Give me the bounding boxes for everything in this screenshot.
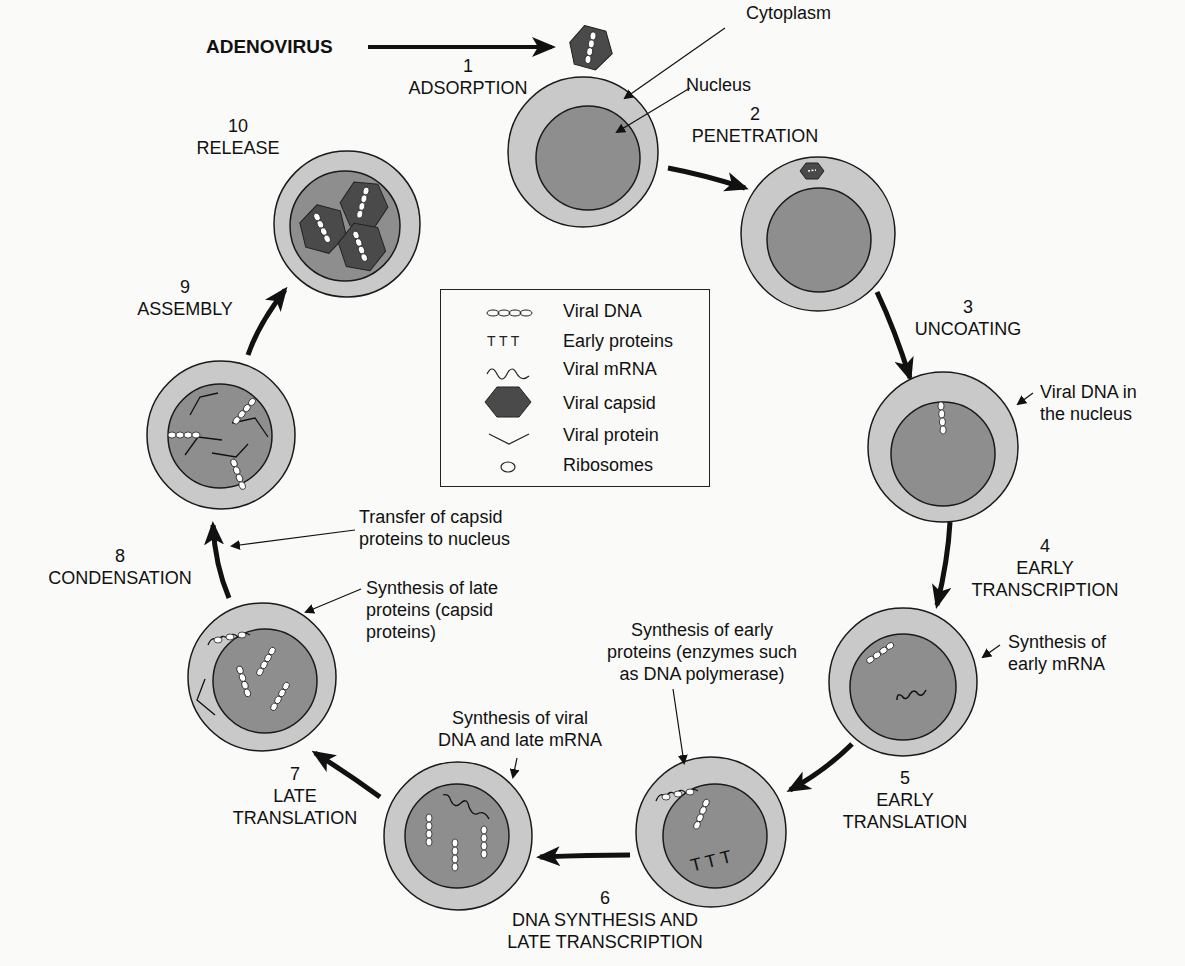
label-line: early mRNA	[1008, 653, 1106, 675]
step-1-label: 1 ADSORPTION	[368, 55, 568, 99]
step-1-number: 1	[368, 55, 568, 77]
legend: Viral DNA T T T Early proteins Viral mRN…	[440, 289, 710, 487]
step-5-name: EARLY	[815, 789, 995, 811]
viral-mrna-icon	[441, 356, 561, 384]
step-8-name: CONDENSATION	[20, 567, 220, 589]
legend-label: Ribosomes	[563, 455, 653, 476]
cell-early-transcription	[829, 608, 977, 756]
step-5-number: 5	[815, 767, 995, 789]
viral-protein-icon	[441, 422, 561, 450]
legend-item-viral-mrna: Viral mRNA	[441, 356, 709, 384]
legend-item-early-proteins: T T T Early proteins	[441, 328, 709, 356]
arrow-step-2	[668, 168, 745, 188]
cytoplasm-label: Cytoplasm	[746, 2, 831, 24]
step-10-name: RELEASE	[168, 137, 308, 159]
synthesis-early-proteins-label: Synthesis of early proteins (enzymes suc…	[582, 619, 822, 685]
legend-label: Early proteins	[563, 331, 673, 352]
step-6-label: 6 DNA SYNTHESIS AND LATE TRANSCRIPTION	[495, 887, 715, 953]
capsid-transfer-pointer	[232, 530, 355, 546]
label-line: Synthesis of early	[582, 619, 822, 641]
label-line: as DNA polymerase)	[582, 663, 822, 685]
early-proteins-icon: T T T	[441, 328, 561, 356]
label-line: Synthesis of	[1008, 631, 1106, 653]
early-mrna-pointer	[983, 645, 1000, 657]
legend-item-viral-protein: Viral protein	[441, 422, 709, 450]
cell-late-translation	[188, 603, 336, 751]
legend-label: Viral DNA	[563, 301, 642, 322]
legend-label: Viral protein	[563, 425, 659, 446]
cell-release	[274, 151, 420, 297]
transfer-capsid-label: Transfer of capsid proteins to nucleus	[359, 506, 510, 550]
step-5-name2: TRANSLATION	[815, 811, 995, 833]
viral-dna-in-nucleus-label: Viral DNA in the nucleus	[1040, 381, 1137, 425]
early-proteins-pointer	[673, 689, 684, 763]
viral-capsid-icon	[441, 384, 561, 420]
svg-text:T T T: T T T	[487, 333, 520, 349]
step-2-label: 2 PENETRATION	[655, 103, 855, 147]
viral-dna-icon	[441, 298, 561, 326]
cell-uncoating	[868, 372, 1018, 522]
step-5-label: 5 EARLY TRANSLATION	[815, 767, 995, 833]
step-9-name: ASSEMBLY	[110, 298, 260, 320]
legend-item-ribosomes: Ribosomes	[441, 452, 709, 480]
label-line: Viral DNA in	[1040, 381, 1137, 403]
cell-early-translation: T T T	[636, 757, 786, 907]
title-adenovirus: ADENOVIRUS	[206, 36, 333, 58]
cell-adsorption	[508, 77, 658, 227]
step-2-name: PENETRATION	[655, 125, 855, 147]
cell-penetration	[741, 157, 895, 311]
step-9-label: 9 ASSEMBLY	[110, 276, 260, 320]
step-10-label: 10 RELEASE	[168, 115, 308, 159]
synthesis-early-mrna-label: Synthesis of early mRNA	[1008, 631, 1106, 675]
step-4-name: EARLY	[945, 557, 1145, 579]
label-line: DNA and late mRNA	[390, 729, 650, 751]
label-line: Transfer of capsid	[359, 506, 510, 528]
step-6-name: DNA SYNTHESIS AND	[495, 909, 715, 931]
viral-dna-synthesis-pointer	[513, 758, 517, 777]
step-8-label: 8 CONDENSATION	[20, 545, 220, 589]
step-4-name2: TRANSCRIPTION	[945, 579, 1145, 601]
synthesis-viral-dna-label: Synthesis of viral DNA and late mRNA	[390, 707, 650, 751]
label-line: proteins)	[366, 621, 498, 643]
label-line: proteins (capsid	[366, 599, 498, 621]
label-line: the nucleus	[1040, 403, 1137, 425]
step-10-number: 10	[168, 115, 308, 137]
viral-dna-pointer	[1018, 393, 1033, 404]
step-7-label: 7 LATE TRANSLATION	[215, 763, 375, 829]
step-3-name: UNCOATING	[898, 318, 1038, 340]
step-3-label: 3 UNCOATING	[898, 296, 1038, 340]
adenovirus-capsid-icon	[565, 23, 618, 73]
step-4-number: 4	[945, 535, 1145, 557]
step-6-name2: LATE TRANSCRIPTION	[495, 931, 715, 953]
ribosome-icon	[441, 452, 561, 480]
legend-item-viral-capsid: Viral capsid	[441, 390, 709, 418]
step-3-number: 3	[898, 296, 1038, 318]
late-proteins-pointer	[306, 589, 361, 612]
arrow-step-6	[540, 855, 630, 857]
step-8-number: 8	[20, 545, 220, 567]
step-6-number: 6	[495, 887, 715, 909]
step-7-name: LATE	[215, 785, 375, 807]
step-7-name2: TRANSLATION	[215, 807, 375, 829]
step-4-label: 4 EARLY TRANSCRIPTION	[945, 535, 1145, 601]
label-line: proteins (enzymes such	[582, 641, 822, 663]
step-1-name: ADSORPTION	[368, 77, 568, 99]
step-9-number: 9	[110, 276, 260, 298]
label-line: proteins to nucleus	[359, 528, 510, 550]
cell-condensation	[147, 361, 295, 509]
step-2-number: 2	[655, 103, 855, 125]
label-line: Synthesis of late	[366, 577, 498, 599]
legend-label: Viral mRNA	[563, 359, 657, 380]
label-line: Synthesis of viral	[390, 707, 650, 729]
legend-label: Viral capsid	[563, 393, 656, 414]
legend-item-viral-dna: Viral DNA	[441, 298, 709, 326]
synthesis-late-proteins-label: Synthesis of late proteins (capsid prote…	[366, 577, 498, 643]
nucleus-label: Nucleus	[686, 74, 751, 96]
step-7-number: 7	[215, 763, 375, 785]
